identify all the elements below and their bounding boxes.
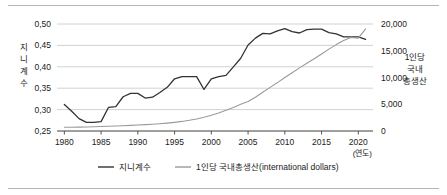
right-axis-tick-label: 20,000 <box>381 19 407 29</box>
left-axis-title-char: 계 <box>20 66 28 76</box>
left-axis-tick-label: 0,45 <box>34 40 51 50</box>
left-axis-tick-label: 0,25 <box>34 126 51 136</box>
x-axis-tick-label: 2005 <box>239 137 258 147</box>
series-line-1 <box>64 29 365 123</box>
x-axis-tick-label: 1990 <box>128 137 147 147</box>
chart-legend: 지니계수1인당 국내총생산(international dollars) <box>98 162 339 172</box>
right-axis-tick-label: 0 <box>381 126 386 136</box>
x-axis-ticks <box>64 131 358 135</box>
axis-titles: 지니계수1인당국내총생산 <box>20 42 427 88</box>
legend-label: 1인당 국내총생산(international dollars) <box>196 162 339 172</box>
left-axis-tick-label: 0,30 <box>34 105 51 115</box>
legend-item[interactable]: 1인당 국내총생산(international dollars) <box>175 162 339 172</box>
x-axis-tick-label: 2015 <box>312 137 331 147</box>
x-axis-tick-label: 2010 <box>275 137 294 147</box>
right-axis-title-line: 총생산 <box>403 76 427 86</box>
right-axis-title-line: 1인당 <box>405 52 426 62</box>
x-axis-tick-label: 2020 <box>349 137 368 147</box>
legend-label: 지니계수 <box>119 162 151 172</box>
x-axis-tick-label: 1980 <box>55 137 74 147</box>
left-axis-tick-label: 0,35 <box>34 83 51 93</box>
figure-container: 0,250,300,350,400,450,50 05,00010,00015,… <box>0 0 447 195</box>
x-axis-tick-label: 1995 <box>165 137 184 147</box>
line-chart: 0,250,300,350,400,450,50 05,00010,00015,… <box>0 0 447 195</box>
left-axis-title-char: 지 <box>20 42 28 52</box>
x-axis-tick-label: 1985 <box>92 137 111 147</box>
left-axis-title-char: 수 <box>20 78 28 88</box>
right-axis-tick-label: 5,000 <box>381 99 403 109</box>
left-axis-title-char: 니 <box>20 54 28 64</box>
left-axis-tick-labels: 0,250,300,350,400,450,50 <box>34 19 51 136</box>
right-axis-title-line: 국내 <box>407 64 423 74</box>
left-axis-tick-label: 0,50 <box>34 19 51 29</box>
x-axis-unit-note: (연도) <box>353 149 373 158</box>
right-axis-tick-label: 15,000 <box>381 46 407 56</box>
series-lines <box>64 29 365 128</box>
legend-item[interactable]: 지니계수 <box>98 162 151 172</box>
x-axis-tick-label: 2000 <box>202 137 221 147</box>
left-axis-tick-label: 0,40 <box>34 62 51 72</box>
x-axis-tick-labels: 198019851990199520002005201020152020(연도) <box>55 137 372 158</box>
